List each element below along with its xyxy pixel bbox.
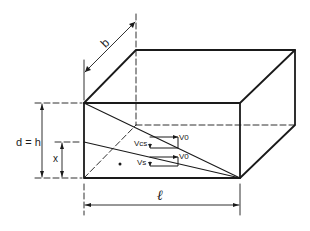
shear-line-lower — [84, 142, 240, 178]
arrowhead-dh-bottom — [40, 171, 44, 177]
arrowhead-vcs — [148, 144, 152, 148]
arrowhead-l-left — [85, 203, 91, 207]
arrowhead-v0-top — [173, 135, 178, 139]
label-b: b — [98, 36, 113, 51]
label-v0-bottom: V0 — [179, 152, 189, 161]
label-vcs: Vcs — [134, 139, 147, 148]
arrowhead-x-bottom — [60, 171, 64, 177]
arrowhead-dh-top — [40, 104, 44, 110]
right-face-edges — [240, 50, 295, 178]
arrowhead-v0-bottom — [173, 155, 178, 159]
label-l: ℓ — [157, 187, 163, 203]
label-dh: d = h — [16, 136, 41, 148]
arrowhead-vs — [148, 162, 152, 166]
arrowhead-l-right — [233, 203, 239, 207]
arrowhead-x-top — [60, 143, 64, 149]
block-diagram: b d = h x ℓ Vcs Vs V0 V0 — [0, 0, 310, 231]
label-vs: Vs — [137, 158, 146, 167]
centroid-dot — [119, 163, 122, 166]
shear-line-upper — [84, 103, 240, 178]
label-v0-top: V0 — [179, 133, 189, 142]
hidden-edge-diagonal — [84, 125, 136, 178]
label-x: x — [53, 153, 58, 164]
top-face-edges — [84, 50, 295, 103]
